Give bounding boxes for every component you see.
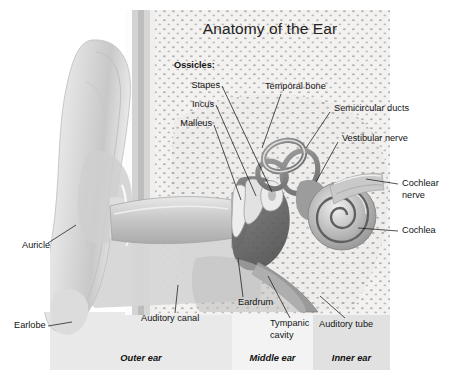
label-vestibular-nerve: Vestibular nerve [342, 133, 408, 145]
label-semicircular-ducts: Semicircular ducts [334, 103, 409, 115]
label-malleus: Malleus [146, 118, 212, 130]
label-auricle: Auricle [22, 240, 50, 252]
region-label-middle-ear: Middle ear [232, 353, 313, 363]
region-label-outer-ear: Outer ear [50, 353, 232, 363]
label-cochlea: Cochlea [402, 225, 436, 237]
region-label-inner-ear: Inner ear [313, 353, 390, 363]
label-eardrum: Eardrum [238, 297, 273, 309]
figure-canvas: Anatomy of the Ear Ossicles: Stapes Incu… [0, 0, 459, 392]
label-temporal-bone: Temporal bone [265, 81, 326, 93]
label-auditory-canal: Auditory canal [141, 313, 199, 325]
label-incus: Incus [152, 99, 214, 111]
label-auditory-tube: Auditory tube [319, 319, 373, 331]
label-stapes: Stapes [156, 80, 220, 92]
label-ossicles-heading: Ossicles: [174, 60, 215, 72]
page-title: Anatomy of the Ear [150, 20, 390, 38]
label-tympanic-cavity: Tympanic cavity [270, 318, 314, 341]
label-cochlear-nerve: Cochlear nerve [402, 178, 457, 201]
ear-anatomy-illustration [0, 0, 459, 392]
auditory-canal-shape [110, 197, 234, 244]
label-earlobe: Earlobe [14, 320, 46, 332]
